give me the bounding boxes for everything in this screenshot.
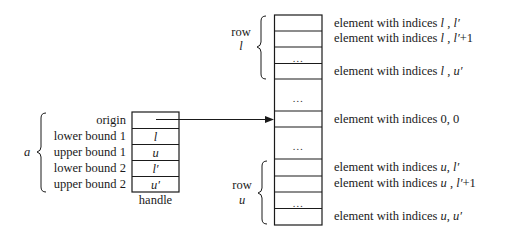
element-label-l-uprime: element with indices l , u′ [334,64,462,78]
element-label-u-lprime-plus-1: element with indices u , l′+1 [334,176,476,190]
ellipsis-row-u: … [275,198,323,209]
handle-value-l: l [132,130,179,144]
element-label-l-lprime-plus-1: element with indices l , l′+1 [334,31,473,45]
handle-value-u: u [132,146,179,160]
field-label-upper-bound-2: upper bound 2 [46,177,126,191]
handle-value-u-prime: u′ [132,178,179,192]
handle-caption: handle [126,193,185,207]
row-l-index: l [226,39,256,53]
brace-row-l [257,16,266,79]
array-column [275,15,323,225]
ellipsis-row-l: … [275,53,323,64]
element-label-u-uprime: element with indices u, u′ [334,209,462,223]
element-label-u-lprime: element with indices u, l′ [334,160,459,174]
brace-a [37,113,46,192]
element-label-l-lprime: element with indices l , l′ [334,16,460,30]
brace-row-u [258,161,267,224]
row-u-word: row [227,178,257,192]
field-label-origin: origin [46,113,126,127]
element-label-0-0: element with indices 0, 0 [334,112,459,126]
handle-group-label: a [24,145,30,159]
row-u-index: u [227,193,257,207]
ellipsis-after-origin: … [275,141,323,152]
field-label-lower-bound-2: lower bound 2 [46,161,126,175]
row-l-word: row [226,25,256,39]
ellipsis-before-origin: … [275,93,323,104]
field-label-upper-bound-1: upper bound 1 [46,145,126,159]
origin-pointer-arrow [156,116,274,123]
handle-value-l-prime: l′ [132,162,179,176]
field-label-lower-bound-1: lower bound 1 [46,129,126,143]
